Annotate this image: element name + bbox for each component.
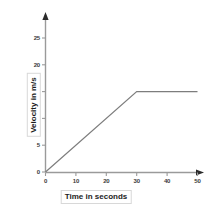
y-axis-title: Velocity in m/s <box>27 73 41 137</box>
x-tick-label-50: 50 <box>191 178 205 184</box>
x-tick-label-30: 30 <box>130 178 144 184</box>
y-axis-arrow-icon <box>42 12 48 20</box>
velocity-series-line <box>46 92 198 172</box>
x-tick-label-40: 40 <box>160 178 174 184</box>
y-tick-label-25: 25 <box>26 35 40 41</box>
velocity-time-chart: 0 5 10 15 20 25 0 10 20 30 40 50 Time in… <box>0 0 216 205</box>
y-tick-label-5: 5 <box>26 142 40 148</box>
x-axis-title: Time in seconds <box>61 190 132 204</box>
x-tick-label-10: 10 <box>69 178 83 184</box>
x-tick-label-0: 0 <box>39 178 53 184</box>
x-tick-label-20: 20 <box>99 178 113 184</box>
y-tick-label-20: 20 <box>26 62 40 68</box>
y-tick-label-0: 0 <box>26 169 40 175</box>
